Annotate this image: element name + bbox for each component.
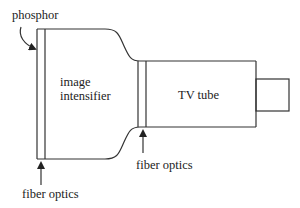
fiber-optics-left-label: fiber optics (22, 187, 79, 201)
image-intensifier-label-line1: image (60, 75, 91, 89)
connector-box (256, 79, 289, 111)
tv-tube-label: TV tube (178, 88, 220, 102)
fiber-optics-right-label: fiber optics (136, 158, 193, 172)
image-intensifier-label-line2: intensifier (60, 89, 112, 103)
diagram-canvas: phosphor image intensifier TV tube fiber… (0, 0, 300, 208)
phosphor-arrow-icon (20, 27, 35, 49)
phosphor-label: phosphor (12, 8, 59, 22)
fiber-optics-plate-middle (138, 61, 146, 127)
